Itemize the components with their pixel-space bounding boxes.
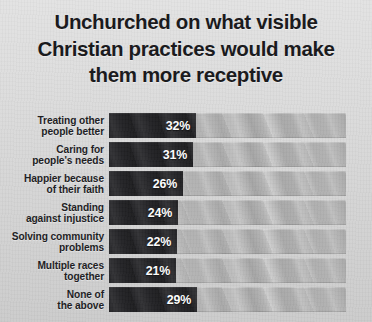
bar-fill: 32% [109, 113, 196, 138]
bar-value-label: 32% [166, 119, 190, 133]
category-label-line: people's needs [0, 155, 104, 166]
bar-value-label: 21% [146, 264, 170, 278]
bar-value-label: 26% [153, 177, 177, 191]
bar-fill: 24% [109, 200, 178, 225]
category-label-line: the above [0, 300, 104, 311]
category-label: Solving community problems [0, 230, 104, 253]
bar-value-label: 22% [147, 235, 171, 249]
category-label-line: Standing [0, 201, 104, 212]
category-label: Happier because of their faith [0, 172, 104, 195]
chart-row: Happier because of their faith 26% [0, 171, 372, 196]
chart-row: Multiple races together 21% [0, 258, 372, 283]
category-label-line: Treating other [0, 114, 104, 125]
chart-title-line-1: Unchurched on what visible [8, 9, 364, 36]
category-label-line: problems [0, 242, 104, 253]
chart-title-line-2: Christian practices would make [8, 36, 364, 63]
bar-track: 31% [109, 142, 346, 167]
category-label-line: Caring for [0, 143, 104, 154]
bar-fill: 26% [109, 171, 183, 196]
category-label-line: against injustice [0, 213, 104, 224]
category-label-line: Happier because [0, 172, 104, 183]
bar-fill: 21% [109, 258, 176, 283]
chart-title: Unchurched on what visible Christian pra… [8, 9, 364, 89]
chart-poster: Unchurched on what visible Christian pra… [0, 0, 372, 322]
category-label-line: Multiple races [0, 259, 104, 270]
bar-fill: 29% [109, 287, 197, 312]
chart-row: Caring for people's needs 31% [0, 142, 372, 167]
bar-track: 32% [109, 113, 346, 138]
bar-value-label: 29% [167, 293, 191, 307]
chart-row: None of the above 29% [0, 287, 372, 312]
category-label-line: None of [0, 288, 104, 299]
category-label: Caring for people's needs [0, 143, 104, 166]
category-label-line: Solving community [0, 230, 104, 241]
category-label: None of the above [0, 288, 104, 311]
bar-track: 21% [109, 258, 346, 283]
category-label: Treating other people better [0, 114, 104, 137]
category-label-line: people better [0, 126, 104, 137]
bar-chart-plot: Treating other people better 32% Caring … [0, 110, 372, 316]
bar-track: 24% [109, 200, 346, 225]
bar-fill: 22% [109, 229, 177, 254]
bar-track: 22% [109, 229, 346, 254]
chart-row: Treating other people better 32% [0, 113, 372, 138]
chart-title-line-3: them more receptive [8, 62, 364, 89]
chart-row: Standing against injustice 24% [0, 200, 372, 225]
bar-track: 26% [109, 171, 346, 196]
bar-track: 29% [109, 287, 346, 312]
category-label: Standing against injustice [0, 201, 104, 224]
bar-value-label: 24% [148, 206, 172, 220]
bar-value-label: 31% [163, 148, 187, 162]
category-label-line: of their faith [0, 184, 104, 195]
bar-fill: 31% [109, 142, 193, 167]
chart-row: Solving community problems 22% [0, 229, 372, 254]
category-label: Multiple races together [0, 259, 104, 282]
category-label-line: together [0, 271, 104, 282]
